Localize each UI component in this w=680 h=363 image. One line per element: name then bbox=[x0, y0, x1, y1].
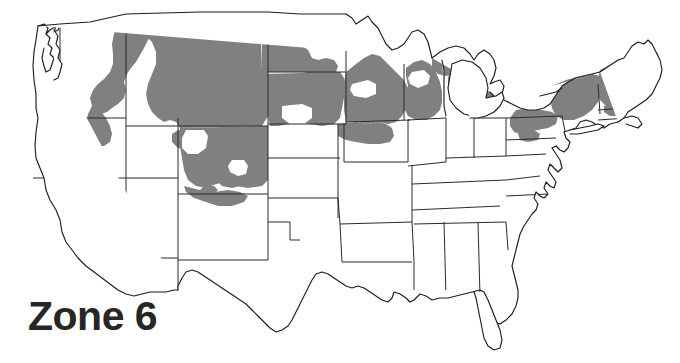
border-wv-va bbox=[506, 154, 546, 156]
border-al-ga bbox=[478, 222, 480, 296]
border-ar-mo bbox=[340, 222, 412, 224]
outline-cape-cod bbox=[624, 116, 642, 128]
outline-gulf-coast bbox=[178, 270, 480, 332]
border-ms-ar bbox=[412, 222, 414, 262]
zone-area-colorado-patch-4 bbox=[218, 176, 240, 188]
border-ky-tn bbox=[412, 206, 500, 210]
border-tn-ms-al bbox=[414, 222, 506, 224]
border-in-oh-ky bbox=[446, 156, 506, 158]
border-va-nc bbox=[506, 176, 540, 180]
zone-area-pacific-northwest bbox=[90, 21, 152, 114]
zone-area-nebraska bbox=[338, 122, 394, 144]
zone-map-figure: Zone 6 bbox=[0, 0, 680, 363]
border-nc-sc bbox=[506, 194, 548, 196]
zone-area-pennsylvania-lobe bbox=[518, 130, 540, 142]
border-ky-tn-north bbox=[412, 180, 506, 184]
border-ok-tx-panhandle bbox=[268, 222, 300, 240]
border-ar-tx bbox=[340, 224, 342, 262]
zone-label: Zone 6 bbox=[28, 296, 157, 337]
border-il-ky bbox=[408, 162, 446, 166]
border-ga-sc bbox=[506, 222, 508, 250]
zone-area-new-york bbox=[550, 74, 604, 120]
knockout-sd-west bbox=[282, 104, 312, 124]
border-ms-al bbox=[444, 222, 446, 298]
